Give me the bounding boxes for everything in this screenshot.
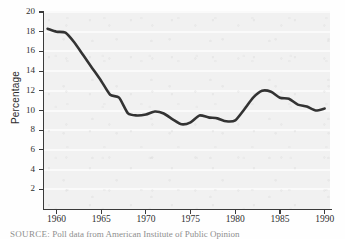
y-tick-mark xyxy=(39,90,44,91)
y-tick-label: 16 xyxy=(1,45,35,55)
y-tick-label: 18 xyxy=(1,26,35,36)
y-tick-mark xyxy=(39,11,44,12)
chart-plot-area xyxy=(44,12,330,209)
x-tick-label: 1970 xyxy=(126,214,166,224)
y-tick-mark xyxy=(39,130,44,131)
y-tick-label: 12 xyxy=(1,85,35,95)
y-tick-label: 6 xyxy=(1,144,35,154)
y-tick-mark xyxy=(39,31,44,32)
y-tick-label: 20 xyxy=(1,6,35,16)
line-series-percentage xyxy=(48,29,325,125)
y-tick-label: 4 xyxy=(1,164,35,174)
source-label: SOURCE: xyxy=(10,229,50,239)
source-note: SOURCE: Poll data from American Institut… xyxy=(10,229,345,239)
y-tick-label: 2 xyxy=(1,183,35,193)
y-tick-mark xyxy=(39,110,44,111)
figure-container: Percentage 2468101214161820 196019651970… xyxy=(0,0,345,239)
y-tick-mark xyxy=(39,51,44,52)
y-tick-label: 8 xyxy=(1,124,35,134)
x-tick-label: 1965 xyxy=(81,214,121,224)
y-tick-label: 10 xyxy=(1,105,35,115)
x-tick-label: 1975 xyxy=(171,214,211,224)
x-tick-label: 1985 xyxy=(260,214,300,224)
y-tick-mark xyxy=(39,169,44,170)
y-tick-mark xyxy=(39,149,44,150)
data-series-layer xyxy=(44,12,330,209)
x-tick-label: 1990 xyxy=(305,214,345,224)
y-tick-mark xyxy=(39,189,44,190)
x-tick-label: 1960 xyxy=(37,214,77,224)
source-text: Poll data from American Institute of Pub… xyxy=(52,229,239,239)
y-tick-label: 14 xyxy=(1,65,35,75)
y-tick-mark xyxy=(39,71,44,72)
x-tick-label: 1980 xyxy=(215,214,255,224)
x-axis-line xyxy=(43,209,332,210)
